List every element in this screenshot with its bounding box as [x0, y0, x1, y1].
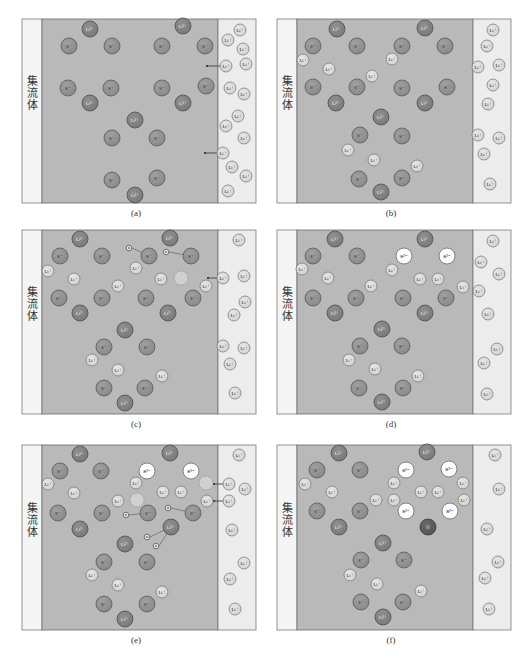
li-ion-label: Li⁺ [241, 487, 248, 492]
s-ion-label: S⁻ [146, 254, 152, 259]
li-ion-label: Li⁺ [44, 269, 51, 274]
s-ion-label: S⁻ [354, 254, 360, 259]
s-ion-label: S⁻ [399, 86, 405, 91]
li2s-particle-label: Li²⁺ [421, 26, 429, 31]
s-ion-label: S⁻ [310, 44, 316, 49]
s-ion-label: S⁻ [399, 134, 405, 139]
li2s-particle-label: Li²⁺ [76, 527, 84, 532]
li2s-particle-label: Li²⁺ [335, 451, 343, 456]
li-ion-label: Li⁺ [70, 277, 77, 282]
li-ion-label: Li⁺ [114, 583, 121, 588]
figure: 集流体Li²⁺Li²⁺S⁻S⁻S⁻S⁻S⁻S⁻S⁻S⁻Li²⁺Li²⁺Li²⁺S… [0, 0, 528, 664]
s-ion-label: S⁻ [356, 386, 362, 391]
s-ion-label: S⁻ [109, 44, 115, 49]
collector-label: 集 [27, 285, 38, 299]
li-ion-label: Li⁺ [114, 284, 121, 289]
li-ion-label: Li⁺ [177, 490, 184, 495]
li-ion-label: Li⁺ [219, 344, 226, 349]
s-ion-label: S⁻ [358, 600, 364, 605]
s-ion-label: S⁻ [314, 468, 320, 473]
li-ion-label: Li⁺ [484, 102, 491, 107]
li-ion-label: Li⁺ [240, 92, 247, 97]
collector-label: 流 [27, 513, 38, 527]
s-ion-label: S⁻ [190, 296, 196, 301]
li2s-particle-label: Li²⁺ [167, 525, 175, 530]
collector-label: 体 [27, 525, 38, 539]
electron-dot [165, 251, 167, 253]
li-ion-label: Li⁺ [484, 312, 491, 317]
li2s-particle-label: Li²⁺ [76, 237, 84, 242]
s-ion-label: S⁻ [444, 85, 450, 90]
li-ion-label: Li⁺ [372, 498, 379, 503]
li-ion-label: Li⁺ [88, 358, 95, 363]
li-ion-label: Li⁺ [226, 577, 233, 582]
s-ion-label: S⁻ [354, 85, 360, 90]
s-ion-label: S⁻ [159, 44, 165, 49]
vacancy [199, 476, 213, 490]
panel-d: 集流体Li²⁺Li²⁺S⁻S⁻S²⁻S²⁻Li⁺Li⁺Li⁺Li⁺Li⁺Li⁺L… [277, 230, 511, 414]
li-ion-label: Li⁺ [480, 361, 487, 366]
s-ion-label: S⁻ [399, 176, 405, 181]
dark-particle-core [426, 525, 430, 529]
s-ion-label: S⁻ [399, 44, 405, 49]
s-ion-label: S⁻ [109, 136, 115, 141]
arrow-tail-dot [207, 277, 209, 279]
s-ion-label: S⁻ [442, 44, 448, 49]
li-ion-label: Li⁺ [417, 490, 424, 495]
li-ion-label: Li⁺ [298, 267, 305, 272]
li2s-particle-label: Li²⁺ [423, 450, 431, 455]
collector-label: 体 [27, 98, 38, 112]
s-ion-label: S⁻ [401, 558, 407, 563]
li-ion-label: Li⁺ [231, 391, 238, 396]
li-ion-label: Li⁺ [491, 453, 498, 458]
li-ion-label: Li⁺ [299, 58, 306, 63]
s-ion-label: S⁻ [101, 602, 107, 607]
li-ion-label: Li⁺ [219, 151, 226, 156]
li2s-particle-label: Li²⁺ [421, 237, 429, 242]
s-ion-label: S⁻ [144, 602, 150, 607]
li-ion-label: Li⁺ [157, 277, 164, 282]
li-ion-label: Li⁺ [373, 582, 380, 587]
arrow-tail-dot [204, 152, 206, 154]
li-ion-label: Li⁺ [434, 277, 441, 282]
electron-dot [155, 545, 157, 547]
vacancy [130, 493, 144, 507]
li-ion-label: Li⁺ [459, 285, 466, 290]
collector-label: 体 [282, 525, 293, 539]
s-ion-label: S⁻ [99, 296, 105, 301]
li-ion-label: Li⁺ [222, 64, 229, 69]
s-ion-label: S⁻ [108, 86, 114, 91]
li2s-particle-label: Li²⁺ [86, 101, 94, 106]
panel-c: 集流体Li²⁺Li²⁺S⁻S⁻S⁻S⁻Li⁺Li⁺Li⁺Li⁺Li⁺Li⁺S⁻S… [22, 230, 256, 414]
li-ion-label: Li⁺ [236, 28, 243, 33]
s-ion-label: S⁻ [202, 44, 208, 49]
li-ion-label: Li⁺ [475, 289, 482, 294]
s-ion-label: S⁻ [356, 177, 362, 182]
li-ion-label: Li⁺ [242, 62, 249, 67]
collector-label: 集 [27, 74, 38, 88]
li2s-particle-label: Li²⁺ [131, 118, 139, 123]
li-ion-label: Li⁺ [388, 268, 395, 273]
li2s-particle-label: Li²⁺ [421, 101, 429, 106]
li-ion-label: Li⁺ [240, 274, 247, 279]
electrolyte-region [473, 445, 511, 630]
li2s-particle-label: Li²⁺ [335, 525, 343, 530]
s-ion-label: S⁻ [358, 558, 364, 563]
s-ion-label: S⁻ [99, 511, 105, 516]
s-ion-label: S⁻ [144, 560, 150, 565]
arrow-tail-dot [206, 65, 208, 67]
s-ion-label: S⁻ [310, 85, 316, 90]
li-ion-label: Li⁺ [44, 482, 51, 487]
li-ion-label: Li⁺ [483, 392, 490, 397]
li-ion-label: Li⁺ [225, 482, 232, 487]
collector-label: 集 [282, 74, 293, 88]
s-ion-label: S⁻ [154, 176, 160, 181]
collector-label: 集 [282, 501, 293, 515]
li-ion-label: Li⁺ [235, 453, 242, 458]
s-ion-label: S⁻ [98, 469, 104, 474]
li-ion-label: Li⁺ [371, 367, 378, 372]
collector-label: 流 [27, 86, 38, 100]
vacancy [174, 271, 188, 285]
s-ion-label: S⁻ [65, 86, 71, 91]
collector-label: 体 [282, 309, 293, 323]
